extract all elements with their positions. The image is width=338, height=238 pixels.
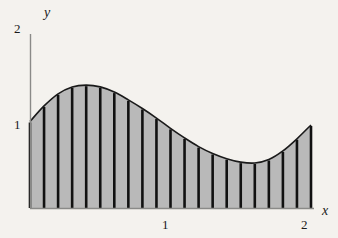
- x-axis-tick-label-1: 1: [162, 218, 169, 231]
- y-axis-tick-label-1: 1: [14, 118, 21, 131]
- x-axis-tick-label-2: 2: [301, 218, 308, 231]
- partition-strips-group: [30, 86, 311, 208]
- figure-canvas: y 2 1 1 2 x: [0, 0, 338, 238]
- y-axis-variable-label: y: [44, 6, 50, 20]
- y-axis-tick-label-2: 2: [14, 22, 21, 35]
- plot-area: [0, 0, 338, 238]
- x-axis-variable-label: x: [322, 204, 328, 218]
